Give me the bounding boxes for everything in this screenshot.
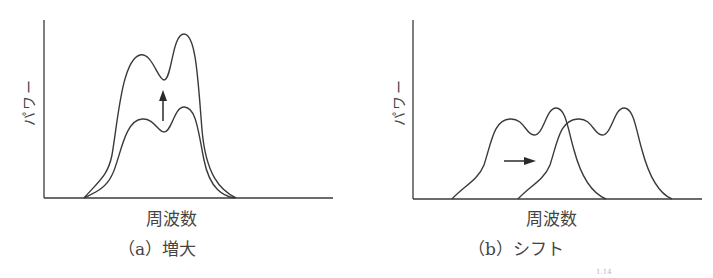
right-arrow-icon	[504, 157, 536, 165]
x-axis-label: 周波数	[146, 205, 197, 230]
panel-shift: パワー 周波数 （b）シフト 1.14	[360, 0, 713, 278]
original-spectrum-curve	[84, 107, 234, 198]
increased-spectrum-curve	[84, 34, 236, 198]
panel-caption: （a）増大	[118, 235, 196, 260]
panel-caption: （b）シフト	[468, 235, 564, 260]
x-axis-label: 周波数	[526, 205, 577, 230]
shifted-spectrum-curve	[518, 108, 672, 199]
reference-mark: 1.14	[596, 268, 612, 276]
y-axis-label: パワー	[388, 78, 408, 126]
original-spectrum-curve	[452, 108, 606, 199]
up-arrow-icon	[159, 90, 167, 121]
panel-increase: パワー 周波数 （a）増大	[0, 0, 360, 278]
y-axis-label: パワー	[18, 78, 38, 126]
